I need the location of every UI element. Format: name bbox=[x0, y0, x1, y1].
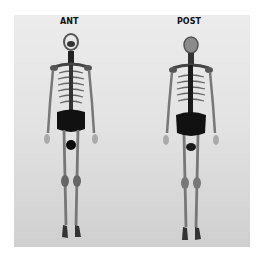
posterior-skeleton-image bbox=[132, 15, 250, 247]
posterior-view: POST bbox=[132, 15, 250, 247]
anterior-skeleton-image bbox=[14, 15, 132, 247]
anterior-view: ANT bbox=[14, 15, 132, 247]
bone-scan-panel: ANT bbox=[14, 15, 250, 247]
